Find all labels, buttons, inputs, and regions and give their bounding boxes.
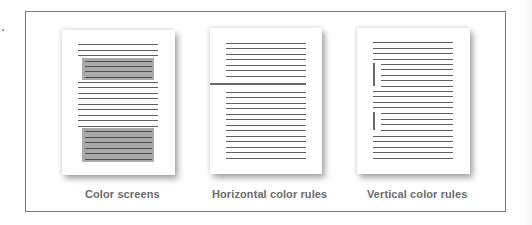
text-line <box>85 66 152 67</box>
vertical-color-rule-2 <box>373 112 375 130</box>
label-horizontal-rules: Horizontal color rules <box>212 188 327 200</box>
text-line <box>85 159 152 160</box>
text-line <box>226 125 306 126</box>
text-line <box>373 136 453 137</box>
text-line <box>226 54 306 55</box>
text-line <box>373 96 453 97</box>
text-line <box>226 108 306 109</box>
text-line <box>373 48 453 49</box>
page-horizontal-rules <box>210 28 322 174</box>
text-line <box>226 130 306 131</box>
text-line <box>373 53 453 54</box>
text-line <box>373 141 453 142</box>
text-line <box>78 55 158 56</box>
text-line <box>381 64 453 65</box>
text-line <box>381 130 453 131</box>
text-line <box>381 86 453 87</box>
text-line <box>85 153 152 154</box>
text-line <box>381 80 453 81</box>
text-line <box>373 91 453 92</box>
text-line <box>226 136 306 137</box>
text-line <box>226 114 306 115</box>
text-line <box>78 44 158 45</box>
text-line <box>85 131 152 132</box>
text-line <box>373 42 453 43</box>
text-line <box>226 65 306 66</box>
text-line <box>373 102 453 103</box>
text-line <box>381 75 453 76</box>
text-line <box>226 76 306 77</box>
stray-mark <box>2 29 4 31</box>
text-line <box>381 119 453 120</box>
text-line <box>226 70 306 71</box>
text-line <box>226 43 306 44</box>
text-line <box>78 82 158 83</box>
text-line <box>226 92 306 93</box>
page-color-screens <box>62 30 175 175</box>
text-line <box>226 59 306 60</box>
text-line <box>85 77 152 78</box>
text-line <box>85 71 152 72</box>
text-line <box>226 119 306 120</box>
text-line <box>85 148 152 149</box>
text-line <box>226 158 306 159</box>
text-line <box>78 120 158 121</box>
text-line <box>381 113 453 114</box>
text-line <box>381 69 453 70</box>
label-vertical-rules: Vertical color rules <box>367 188 467 200</box>
text-line <box>373 107 453 108</box>
text-line <box>78 104 158 105</box>
text-line <box>78 98 158 99</box>
text-line <box>226 97 306 98</box>
page-vertical-rules <box>357 28 470 174</box>
color-screen-bottom <box>82 128 154 162</box>
vertical-color-rule-1 <box>373 63 375 86</box>
horizontal-color-rule <box>210 83 306 85</box>
text-line <box>373 59 453 60</box>
text-line <box>226 147 306 148</box>
color-screen-top <box>82 58 154 80</box>
text-line <box>85 142 152 143</box>
text-line <box>78 109 158 110</box>
text-line <box>78 87 158 88</box>
text-line <box>78 126 158 127</box>
text-line <box>78 115 158 116</box>
text-line <box>226 141 306 142</box>
text-line <box>85 137 152 138</box>
text-line <box>226 152 306 153</box>
text-line <box>373 147 453 148</box>
label-color-screens: Color screens <box>85 188 160 200</box>
text-line <box>85 61 152 62</box>
text-line <box>226 48 306 49</box>
text-line <box>373 158 453 159</box>
text-line <box>373 152 453 153</box>
edge-strip <box>526 0 532 225</box>
text-line <box>78 50 158 51</box>
text-line <box>78 93 158 94</box>
text-line <box>226 103 306 104</box>
text-line <box>381 124 453 125</box>
